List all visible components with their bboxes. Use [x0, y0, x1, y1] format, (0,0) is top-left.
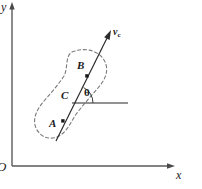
velocity-subscript: c [117, 31, 120, 39]
y-axis-label: y [1, 1, 6, 13]
point-label-a: A [49, 118, 56, 129]
point-label-c: C [61, 90, 68, 101]
x-axis-label: x [176, 169, 181, 181]
point-marker-A [61, 119, 64, 122]
theta-angle-label: θ [84, 87, 90, 98]
velocity-vector-label: vc [113, 27, 121, 39]
y-axis [9, 2, 14, 166]
rigid-body-outline [35, 50, 107, 139]
point-label-b: B [77, 60, 84, 71]
diagram-canvas [0, 0, 202, 189]
velocity-diagram-figure: y x O A B C θ vc [0, 0, 202, 189]
origin-label: O [0, 160, 6, 173]
point-marker-B [85, 74, 88, 77]
x-axis [12, 163, 175, 169]
